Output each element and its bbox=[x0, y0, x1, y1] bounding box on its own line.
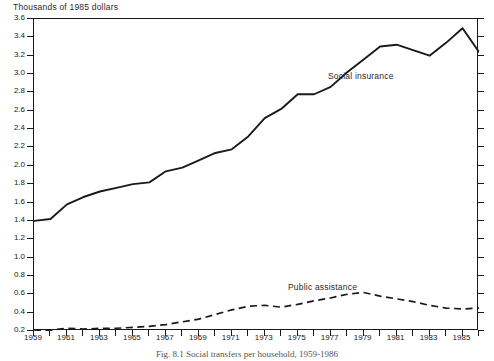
y-axis-tick bbox=[27, 220, 33, 221]
x-axis-tick-label: 1979 bbox=[354, 333, 372, 342]
x-axis-tick-label: 1967 bbox=[156, 333, 174, 342]
y-axis-tick-label: 2.0 bbox=[2, 160, 25, 169]
y-axis-tick bbox=[27, 128, 33, 129]
x-axis-tick bbox=[247, 330, 248, 336]
y-axis-tick-right bbox=[478, 18, 484, 19]
y-axis-tick-label: 2.4 bbox=[2, 123, 25, 132]
x-axis-tick bbox=[280, 330, 281, 336]
x-axis-tick-label: 1969 bbox=[189, 333, 207, 342]
y-axis-tick-right bbox=[478, 91, 484, 92]
y-axis-tick-label: 0.8 bbox=[2, 270, 25, 279]
y-axis-tick-label: 0.2 bbox=[2, 325, 25, 334]
y-axis-tick-label: 3.2 bbox=[2, 50, 25, 59]
y-axis-tick bbox=[27, 55, 33, 56]
y-axis-tick-right bbox=[478, 110, 484, 111]
y-axis-tick-label: 3.0 bbox=[2, 68, 25, 77]
y-axis-tick bbox=[27, 183, 33, 184]
x-axis-tick bbox=[313, 330, 314, 336]
y-axis-tick-label: 1.4 bbox=[2, 215, 25, 224]
x-axis-tick-label: 1963 bbox=[90, 333, 108, 342]
x-axis-tick-label: 1973 bbox=[255, 333, 273, 342]
y-axis-tick-right bbox=[478, 202, 484, 203]
x-axis-tick-label: 1975 bbox=[288, 333, 306, 342]
y-axis-tick bbox=[27, 257, 33, 258]
x-axis-tick bbox=[379, 330, 380, 336]
y-axis-tick bbox=[27, 36, 33, 37]
x-axis-tick bbox=[412, 330, 413, 336]
y-axis-tick bbox=[27, 202, 33, 203]
y-axis-tick-label: 0.4 bbox=[2, 307, 25, 316]
y-axis-tick-label: 2.8 bbox=[2, 86, 25, 95]
x-axis-tick-label: 1985 bbox=[453, 333, 471, 342]
y-axis-tick-right bbox=[478, 165, 484, 166]
x-axis-tick bbox=[181, 330, 182, 336]
chart-canvas bbox=[34, 19, 479, 331]
y-axis-tick-label: 1.8 bbox=[2, 178, 25, 187]
y-axis-tick-label: 1.6 bbox=[2, 197, 25, 206]
y-axis-tick-right bbox=[478, 257, 484, 258]
y-axis-tick-label: 3.4 bbox=[2, 31, 25, 40]
x-axis-tick-label: 1961 bbox=[57, 333, 75, 342]
series-line-public-assistance bbox=[34, 292, 479, 331]
x-axis-tick bbox=[445, 330, 446, 336]
y-axis-tick-label: 2.2 bbox=[2, 141, 25, 150]
y-axis-tick bbox=[27, 91, 33, 92]
x-axis-tick bbox=[82, 330, 83, 336]
x-axis-tick-label: 1981 bbox=[387, 333, 405, 342]
x-axis-tick-label: 1977 bbox=[321, 333, 339, 342]
y-axis-tick bbox=[27, 293, 33, 294]
x-axis-tick bbox=[346, 330, 347, 336]
y-axis-tick-right bbox=[478, 238, 484, 239]
y-axis-tick bbox=[27, 110, 33, 111]
figure-root: Thousands of 1985 dollars 0.20.40.60.81.… bbox=[0, 0, 494, 361]
y-axis-tick-right bbox=[478, 183, 484, 184]
y-axis-tick-right bbox=[478, 128, 484, 129]
y-axis-title: Thousands of 1985 dollars bbox=[13, 2, 118, 12]
series-label-public-assistance: Public assistance bbox=[288, 282, 357, 292]
x-axis-tick bbox=[214, 330, 215, 336]
x-axis-tick bbox=[478, 330, 479, 336]
y-axis-tick-right bbox=[478, 146, 484, 147]
y-axis-tick bbox=[27, 73, 33, 74]
y-axis-tick-label: 3.6 bbox=[2, 13, 25, 22]
y-axis-tick bbox=[27, 18, 33, 19]
y-axis-tick-label: 2.6 bbox=[2, 105, 25, 114]
y-axis-tick bbox=[27, 275, 33, 276]
x-axis-tick-label: 1959 bbox=[24, 333, 42, 342]
figure-caption: Fig. 8.1 Social transfers per household,… bbox=[0, 349, 494, 359]
y-axis-tick-label: 1.0 bbox=[2, 252, 25, 261]
y-axis-tick bbox=[27, 238, 33, 239]
y-axis-tick-right bbox=[478, 36, 484, 37]
series-line-social-insurance bbox=[34, 28, 479, 221]
y-axis-tick-label: 0.6 bbox=[2, 288, 25, 297]
y-axis-tick-right bbox=[478, 55, 484, 56]
y-axis-tick-right bbox=[478, 73, 484, 74]
x-axis-tick-label: 1965 bbox=[123, 333, 141, 342]
y-axis-tick-right bbox=[478, 312, 484, 313]
x-axis-tick bbox=[115, 330, 116, 336]
y-axis-tick bbox=[27, 312, 33, 313]
y-axis-tick-right bbox=[478, 293, 484, 294]
x-axis-tick-label: 1983 bbox=[420, 333, 438, 342]
y-axis-tick-right bbox=[478, 275, 484, 276]
y-axis-tick-label: 1.2 bbox=[2, 233, 25, 242]
x-axis-tick-label: 1971 bbox=[222, 333, 240, 342]
y-axis-tick bbox=[27, 165, 33, 166]
series-label-social-insurance: Social insurance bbox=[328, 71, 394, 81]
x-axis-tick bbox=[148, 330, 149, 336]
y-axis-tick bbox=[27, 146, 33, 147]
y-axis-tick-right bbox=[478, 220, 484, 221]
x-axis-tick bbox=[49, 330, 50, 336]
plot-area bbox=[33, 18, 478, 330]
